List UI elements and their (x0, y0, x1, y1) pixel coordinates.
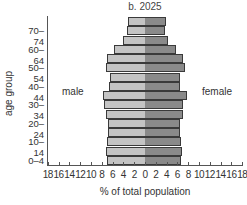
bar-male-55–59 (107, 54, 145, 63)
x-tick-label: 2 (153, 169, 158, 180)
bar-female-30–34 (145, 100, 183, 109)
x-axis-title: % of total population (0, 186, 247, 197)
x-tick (59, 162, 60, 165)
x-tick (199, 162, 200, 165)
y-axis-title: age group (3, 71, 14, 116)
x-tick (91, 162, 92, 165)
chart-title: b. 2025 (0, 1, 247, 12)
x-tick (221, 162, 222, 165)
bar-female-15–19 (145, 128, 180, 137)
x-axis-line (47, 165, 243, 166)
population-pyramid-chart: b. 2025 age group 0–410–1420–2430–3440–4… (0, 0, 247, 205)
bar-male-15–19 (108, 128, 145, 137)
x-tick-label: 4 (121, 169, 126, 180)
bar-male-65–69 (123, 36, 145, 45)
male-label: male (62, 86, 84, 97)
bar-male-5–9 (106, 147, 145, 156)
x-tick (231, 162, 232, 165)
bar-female-60–64 (145, 45, 176, 54)
bar-male-45–49 (110, 73, 145, 82)
bar-female-0–4 (145, 156, 181, 165)
x-tick-label: 18 (43, 169, 53, 180)
x-tick-label: 0 (142, 169, 147, 180)
bar-female-40–44 (145, 82, 180, 91)
x-tick-label: 8 (99, 169, 104, 180)
bar-female-75+ (145, 17, 166, 26)
x-tick-label: 18 (237, 169, 247, 180)
x-tick (102, 162, 103, 165)
x-tick (123, 162, 124, 165)
bar-female-25–29 (145, 110, 183, 119)
y-tick-label: 70–74 (20, 25, 44, 47)
x-tick (48, 162, 49, 165)
x-tick-label: 16 (54, 169, 64, 180)
bar-male-40–44 (109, 82, 145, 91)
bar-female-55–59 (145, 54, 183, 63)
bar-male-20–24 (108, 119, 145, 128)
x-tick (210, 162, 211, 165)
x-tick-label: 2 (132, 169, 137, 180)
x-tick-label: 12 (205, 169, 215, 180)
x-tick (188, 162, 189, 165)
bar-male-25–29 (106, 110, 145, 119)
bar-male-10–14 (107, 137, 145, 146)
x-tick (145, 162, 146, 165)
bar-female-70–74 (145, 26, 165, 35)
y-axis-line (47, 16, 48, 165)
bar-male-75+ (128, 17, 145, 26)
x-tick (134, 162, 135, 165)
x-tick (242, 162, 243, 165)
bar-male-70–74 (127, 26, 145, 35)
bar-male-35–39 (103, 91, 145, 100)
x-tick (113, 162, 114, 165)
female-label: female (202, 86, 232, 97)
x-tick-label: 12 (75, 169, 85, 180)
x-tick (69, 162, 70, 165)
bar-female-10–14 (145, 137, 181, 146)
bar-male-60–64 (114, 45, 145, 54)
x-tick-label: 14 (216, 169, 226, 180)
bar-female-45–49 (145, 73, 180, 82)
x-tick-label: 10 (86, 169, 96, 180)
bar-male-30–34 (104, 100, 145, 109)
x-tick-label: 4 (164, 169, 169, 180)
x-tick-label: 16 (226, 169, 236, 180)
x-tick (177, 162, 178, 165)
bar-female-50–54 (145, 63, 185, 72)
x-tick-label: 8 (186, 169, 191, 180)
x-tick-label: 6 (110, 169, 115, 180)
bar-male-50–54 (106, 63, 145, 72)
bar-female-65–69 (145, 36, 168, 45)
bar-female-5–9 (145, 147, 182, 156)
x-tick-label: 14 (64, 169, 74, 180)
bar-female-20–24 (145, 119, 180, 128)
x-tick (156, 162, 157, 165)
x-tick (80, 162, 81, 165)
x-tick-label: 6 (175, 169, 180, 180)
x-tick-label: 10 (194, 169, 204, 180)
bar-female-35–39 (145, 91, 187, 100)
x-tick (167, 162, 168, 165)
